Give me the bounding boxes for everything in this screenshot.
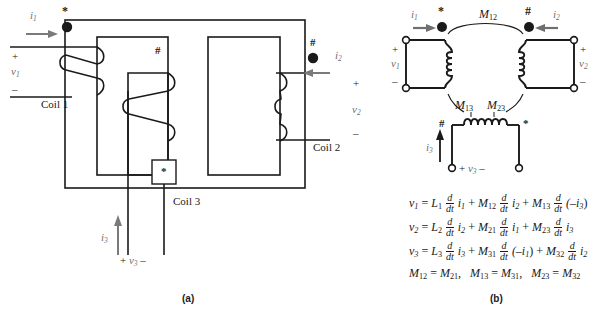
coil1-polarity-dot: [62, 22, 72, 32]
current-arrow-i1: [26, 30, 58, 38]
core-window-right: [208, 37, 280, 175]
d-dt-fraction: ddt: [568, 241, 576, 263]
d-dt-fraction: ddt: [446, 193, 454, 215]
label-v1-a: v1: [11, 66, 20, 79]
label-hash-center: #: [155, 45, 161, 56]
b-label-hash-bottom: #: [439, 118, 445, 129]
d-dt-fraction: ddt: [554, 217, 562, 239]
label-star-coil3: *: [161, 166, 167, 177]
b-terminal-left-bottom: [403, 85, 410, 92]
label-minus-v1: –: [12, 84, 18, 95]
b-label-hash-right: #: [525, 5, 531, 17]
b-label-star-left: *: [438, 5, 444, 17]
b-label-v1: v1: [391, 58, 400, 71]
d-dt-fraction: ddt: [500, 217, 508, 239]
d-dt-fraction: ddt: [446, 217, 454, 239]
b-current-arrow-i3: [436, 129, 444, 162]
current-arrow-i3: [114, 215, 122, 255]
b-label-v3: + v3 –: [459, 163, 485, 176]
b-terminal-left-top: [403, 37, 410, 44]
b-dot-hash-right: [524, 22, 534, 32]
b-terminal-right-bottom: [571, 85, 578, 92]
b-label-i1: i1: [411, 9, 418, 22]
label-coil2: Coil 2: [313, 142, 340, 153]
equation-reciprocity: M12 = M21, M13 = M31, M23 = M32: [409, 266, 580, 281]
panel-a-caption: (a): [182, 294, 194, 304]
current-arrow-i2: [303, 69, 330, 77]
b-current-arrow-i1: [413, 24, 436, 32]
coil2-winding: [275, 73, 287, 141]
label-minus-v2: –: [353, 128, 359, 139]
label-i2-a: i2: [335, 50, 342, 63]
b-label-M13: M13: [455, 99, 473, 113]
core-outer-rect: [65, 20, 305, 188]
b-label-minus-left: –: [392, 76, 398, 87]
panel-a-drawing: [0, 0, 330, 300]
equation-v2: v2 = L2 ddt i2 + M21 ddt i1 + M23 ddt i3: [409, 217, 573, 239]
b-label-plus-left: +: [392, 44, 398, 55]
b-label-i2: i2: [553, 9, 560, 22]
d-dt-fraction: ddt: [500, 241, 508, 263]
label-v3-a: + v3 –: [120, 255, 146, 268]
label-i3-a: i3: [101, 232, 108, 245]
b-dot-star-left: [437, 22, 447, 32]
b-coupling-arc-M23: [506, 94, 523, 112]
b-label-i3: i3: [426, 142, 433, 155]
panel-b-drawing: [390, 0, 609, 190]
coil2-polarity-dot: [308, 53, 318, 63]
d-dt-fraction: ddt: [554, 193, 562, 215]
d-dt-fraction: ddt: [446, 241, 454, 263]
core-window-left: [97, 37, 168, 175]
label-hash-coil2: #: [310, 37, 316, 48]
b-label-plus-right: +: [580, 44, 586, 55]
label-star-coil1: *: [62, 5, 68, 17]
b-label-M12: M12: [479, 8, 497, 22]
panel-b-caption: (b): [490, 294, 503, 304]
label-plus-v1: +: [12, 51, 18, 62]
figure-container: i1 * + v1 – Coil 1 # * Coil 3 # i2 + v2 …: [0, 0, 609, 316]
b-label-v2: v2: [579, 58, 588, 71]
b-terminal-bottom-left: [449, 165, 456, 172]
label-coil3: Coil 3: [173, 196, 200, 207]
label-i1-a: i1: [30, 10, 37, 23]
b-coupling-arc-M12: [448, 24, 523, 35]
label-v2-a: v2: [352, 104, 361, 117]
b-current-arrow-i2: [535, 24, 558, 32]
b-label-M23: M23: [487, 99, 505, 113]
b-label-minus-right: –: [580, 76, 586, 87]
b-inductor-L2: [519, 40, 526, 88]
b-terminal-right-top: [571, 37, 578, 44]
label-coil1: Coil 1: [41, 99, 68, 110]
equation-v3: v3 = L3 ddt i3 + M31 ddt (–i1) + M32 ddt…: [409, 241, 587, 263]
b-inductor-L1: [445, 40, 452, 88]
equation-v1: v1 = L1 ddt i1 + M12 ddt i2 + M13 ddt (–…: [409, 193, 587, 215]
b-inductor-L3: [464, 119, 507, 125]
label-plus-v2: +: [353, 78, 359, 89]
d-dt-fraction: ddt: [500, 193, 508, 215]
b-label-star-bottom: *: [523, 118, 529, 129]
b-terminal-bottom-right: [516, 165, 523, 172]
coil3-winding: [123, 73, 175, 141]
